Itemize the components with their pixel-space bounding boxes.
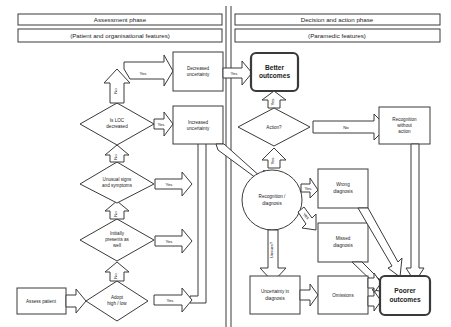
arrow-to-decreased: [124, 55, 173, 86]
recog-diag-label-1: Recognition /: [259, 194, 287, 199]
omissions-label: Omissions: [332, 293, 354, 298]
unusual-label-1: Unusual signs: [103, 177, 133, 182]
recog-wo-label-3: action: [398, 129, 411, 134]
unusual-yes-label: Yes: [165, 182, 173, 187]
arrow-recog-wo-to-poorer: [406, 144, 424, 282]
initially-yes-arrow: [155, 229, 192, 253]
loc-yes-label: Yes: [157, 122, 165, 127]
adopt-label-1: Adopt: [111, 295, 124, 300]
adopt-no-label: No: [113, 273, 118, 279]
recog-wrong-yes-label: Yes: [304, 186, 312, 191]
flowchart: Assessment phase (Patient and organisati…: [0, 0, 451, 327]
decision-phase-label: Decision and action phase: [301, 16, 374, 23]
wrong-label-1: Wrong: [336, 182, 350, 187]
to-decreased-yes-label: Yes: [139, 71, 147, 76]
action-no-arrow: [313, 114, 387, 140]
poorer-label-1: Poorer: [394, 287, 416, 294]
decreased-yes-label: Yes: [230, 71, 238, 76]
poorer-label-2: outcomes: [389, 296, 420, 303]
initially-label-2: presents as: [105, 237, 129, 242]
assessment-sub-label: (Patient and organisational features): [70, 32, 170, 39]
initially-label-1: Initially: [110, 231, 125, 236]
assess-patient-label: Assess patient: [26, 299, 57, 304]
yes-collector-channel: [190, 136, 206, 303]
action-label: Action?: [266, 125, 282, 130]
decision-sub-label: (Paramedic features): [308, 32, 366, 39]
recog-diag-label-2: diagnosis: [262, 201, 282, 206]
recog-wo-label-2: without: [397, 123, 412, 128]
arrow-assess-to-adopt: [66, 289, 86, 313]
arrow-uncert-to-omissions: [300, 284, 318, 306]
better-label-1: Better: [265, 64, 284, 71]
unusual-label-2: and symptoms: [102, 183, 133, 188]
better-label-2: outcomes: [259, 72, 290, 79]
initially-no-label: No: [113, 211, 118, 217]
recognition-diagnosis-node: [242, 170, 302, 230]
decreased-label-1: Decreased: [187, 66, 210, 71]
missed-label-1: Missed: [336, 236, 351, 241]
assessment-phase-label: Assessment phase: [94, 16, 147, 23]
loc-label-1: Is LOC: [110, 118, 125, 123]
loc-label-2: decreased: [106, 124, 128, 129]
recog-wo-label-1: Recognition: [392, 117, 417, 122]
initially-yes-label: Yes: [165, 239, 173, 244]
uncert-diag-label-2: diagnosis: [265, 296, 285, 301]
action-yes-label: Yes: [270, 98, 275, 106]
unusual-yes-arrow: [155, 172, 192, 196]
adopt-yes-label: Yes: [166, 298, 174, 303]
missed-label-2: diagnosis: [333, 243, 353, 248]
unusual-no-label: No: [113, 154, 118, 160]
recog-yes-up-label: Yes: [270, 157, 275, 165]
loc-no-arrow: [104, 69, 130, 103]
adopt-label-2: high / low: [107, 301, 127, 306]
decreased-label-2: uncertainty: [187, 72, 210, 77]
increased-uncertainty-box: [173, 106, 223, 144]
initially-label-3: well: [113, 243, 121, 248]
loc-no-label: No: [113, 88, 118, 94]
unsure-label: Unsure?: [269, 241, 274, 258]
wrong-label-2: diagnosis: [333, 189, 353, 194]
uncertainty-in-diagnosis-box: [250, 276, 300, 314]
uncert-diag-label-1: Uncertainty in: [261, 289, 290, 294]
increased-label-2: uncertainty: [187, 126, 210, 131]
increased-label-1: Increased: [188, 120, 209, 125]
action-no-label: No: [343, 125, 349, 130]
